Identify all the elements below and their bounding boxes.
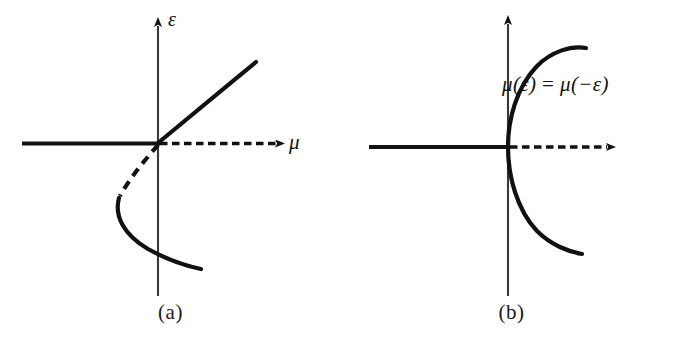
panel-b-caption: (b) [341, 300, 682, 325]
annotation-rhs: μ(−ε) [560, 72, 609, 96]
bifurcation-figure: ε μ ε μ [0, 0, 682, 355]
annotation-lhs: μ(ε) [502, 72, 536, 96]
parabola-upper-branch [508, 47, 586, 147]
parabola-lower-branch [508, 147, 582, 254]
epsilon-axis-label: ε [168, 8, 176, 31]
mu-axis-label: μ [289, 130, 300, 155]
symmetry-annotation: μ(ε) = μ(−ε) [502, 72, 609, 97]
folded-stable-branch [118, 198, 201, 269]
folded-unstable-branch [120, 145, 158, 196]
upper-stable-branch [158, 62, 256, 143]
panel-a-caption: (a) [0, 300, 341, 325]
annotation-operator: = [542, 72, 554, 96]
